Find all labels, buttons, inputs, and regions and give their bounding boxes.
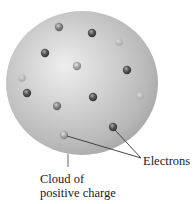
- electron-8: [23, 89, 31, 97]
- electron-11: [53, 102, 61, 110]
- electron-10: [136, 92, 144, 100]
- electron-2: [88, 29, 96, 37]
- electron-7: [18, 74, 26, 82]
- cloud-label-line-2: positive charge: [40, 186, 116, 200]
- electron-6: [123, 66, 131, 74]
- electron-1: [55, 23, 63, 31]
- electron-13: [60, 131, 68, 139]
- electron-5: [73, 62, 81, 70]
- cloud-of-positive-charge-label: Cloud of positive charge: [40, 172, 116, 200]
- electron-4: [41, 49, 49, 57]
- electrons-label: Electrons: [143, 154, 190, 168]
- electron-9: [89, 93, 97, 101]
- cloud-label-line-1: Cloud of: [40, 172, 116, 186]
- positive-charge-cloud: [6, 11, 158, 155]
- electron-3: [115, 38, 123, 46]
- electron-12: [109, 123, 117, 131]
